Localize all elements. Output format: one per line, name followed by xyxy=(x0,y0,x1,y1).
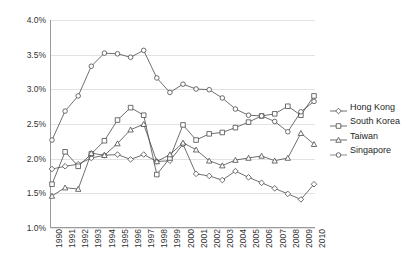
data-point-marker xyxy=(62,163,68,169)
data-point-marker xyxy=(155,172,160,177)
y-axis-tick-label: 1.5% xyxy=(27,189,46,198)
data-point-marker xyxy=(128,105,133,110)
legend-marker-square-icon xyxy=(330,117,347,127)
y-axis-tick-label: 3.0% xyxy=(27,85,46,94)
data-point-marker xyxy=(259,114,264,119)
legend-item-singapore[interactable]: Singapore xyxy=(330,144,413,159)
data-point-marker xyxy=(285,155,290,160)
data-point-marker xyxy=(141,113,146,118)
data-point-marker xyxy=(115,152,121,158)
data-point-marker xyxy=(272,112,277,117)
y-axis: 4.0%3.5%3.0%2.5%2.0%1.5%1.0% xyxy=(0,0,46,248)
x-axis-tick-label: 1991 xyxy=(68,229,77,248)
data-point-marker xyxy=(50,138,55,143)
data-point-marker xyxy=(206,173,212,179)
line-chart: 4.0%3.5%3.0%2.5%2.0%1.5%1.0% 19901991199… xyxy=(0,0,413,269)
data-point-marker xyxy=(220,130,225,135)
y-axis-tick-label: 1.0% xyxy=(27,224,46,233)
data-point-marker xyxy=(246,113,251,118)
y-axis-tick-label: 4.0% xyxy=(27,16,46,25)
series-hong-kong xyxy=(49,141,317,202)
data-point-marker xyxy=(128,127,133,132)
data-point-marker xyxy=(49,166,55,172)
data-point-marker xyxy=(76,164,81,169)
x-axis-tick-label: 2006 xyxy=(265,229,274,248)
x-axis-tick-label: 2002 xyxy=(213,229,222,248)
legend-item-label: Taiwan xyxy=(350,132,378,141)
data-point-marker xyxy=(115,52,120,57)
data-point-marker xyxy=(141,152,147,158)
x-axis-tick-label: 1998 xyxy=(160,229,169,248)
x-axis: 1990199119921993199419951996199719981999… xyxy=(50,229,315,269)
data-point-marker xyxy=(207,87,212,92)
legend-item-south-korea[interactable]: South Korea xyxy=(330,115,413,130)
series-layer xyxy=(51,20,315,227)
y-axis-tick-label: 2.5% xyxy=(27,120,46,129)
data-point-marker xyxy=(49,193,54,198)
data-point-marker xyxy=(233,125,238,130)
data-point-marker xyxy=(102,138,107,143)
legend-item-hong-kong[interactable]: Hong Kong xyxy=(330,100,413,115)
legend-item-taiwan[interactable]: Taiwan xyxy=(330,129,413,144)
legend-marker-circle-icon xyxy=(330,146,347,156)
legend-marker-triangle-icon xyxy=(330,131,347,141)
x-axis-tick-label: 1996 xyxy=(134,229,143,248)
data-point-marker xyxy=(272,186,278,192)
data-point-marker xyxy=(50,182,55,187)
data-point-marker xyxy=(180,140,185,145)
data-point-marker xyxy=(286,104,291,109)
chart-legend: Hong KongSouth KoreaTaiwanSingapore xyxy=(330,100,413,158)
legend-item-label: South Korea xyxy=(350,117,400,126)
series-taiwan xyxy=(49,122,316,199)
x-axis-tick-label: 2005 xyxy=(252,229,261,248)
data-point-marker xyxy=(259,180,265,186)
data-point-marker xyxy=(168,90,173,95)
x-axis-tick-label: 2010 xyxy=(318,229,327,248)
data-point-marker xyxy=(233,107,238,112)
series-singapore xyxy=(50,48,317,142)
data-point-marker xyxy=(155,76,160,81)
data-point-marker xyxy=(312,94,317,99)
data-point-marker xyxy=(102,51,107,56)
data-point-marker xyxy=(299,109,304,114)
x-axis-tick-label: 1992 xyxy=(81,229,90,248)
data-point-marker xyxy=(193,171,199,177)
x-axis-tick-label: 1997 xyxy=(147,229,156,248)
x-axis-tick-label: 2009 xyxy=(305,229,314,248)
x-axis-tick-label: 2001 xyxy=(200,229,209,248)
data-point-marker xyxy=(207,132,212,137)
x-axis-tick-label: 1994 xyxy=(108,229,117,248)
data-point-marker xyxy=(259,153,264,158)
data-point-marker xyxy=(76,94,81,99)
data-point-marker xyxy=(141,48,146,53)
x-axis-tick-label: 2004 xyxy=(239,229,248,248)
x-axis-tick-label: 2003 xyxy=(226,229,235,248)
data-point-marker xyxy=(246,120,251,125)
data-point-marker xyxy=(220,163,225,168)
data-point-marker xyxy=(181,82,186,87)
x-axis-tick-label: 1999 xyxy=(173,229,182,248)
x-axis-tick-label: 2008 xyxy=(292,229,301,248)
data-point-marker xyxy=(286,129,291,134)
data-point-marker xyxy=(298,130,303,135)
legend-item-label: Singapore xyxy=(350,146,391,155)
data-point-marker xyxy=(233,168,239,174)
legend-item-label: Hong Kong xyxy=(350,103,395,112)
data-point-marker xyxy=(194,87,199,92)
y-axis-tick-label: 2.0% xyxy=(27,154,46,163)
data-point-marker xyxy=(194,138,199,143)
data-point-marker xyxy=(128,55,133,60)
x-axis-tick-label: 1995 xyxy=(121,229,130,248)
x-axis-tick-label: 1990 xyxy=(55,229,64,248)
data-point-marker xyxy=(89,64,94,69)
plot-area xyxy=(50,20,315,228)
data-point-marker xyxy=(220,177,226,183)
x-axis-tick-label: 1993 xyxy=(94,229,103,248)
data-point-marker xyxy=(193,147,198,152)
data-point-marker xyxy=(220,96,225,101)
x-axis-tick-label: 2007 xyxy=(279,229,288,248)
data-point-marker xyxy=(246,175,252,181)
data-point-marker xyxy=(312,99,317,104)
data-point-marker xyxy=(272,119,277,124)
data-point-marker xyxy=(63,150,68,155)
